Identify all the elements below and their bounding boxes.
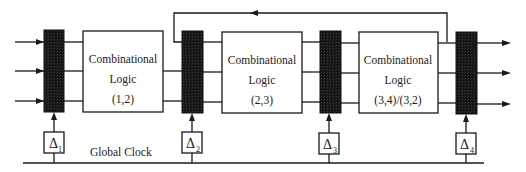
register-2 (182, 31, 203, 113)
logic-block-1: Combinational Logic (1,2) (83, 31, 163, 112)
logic-block-subtitle: Logic (110, 73, 137, 86)
feedback-arrow-icon (250, 10, 258, 16)
output-signals (477, 43, 504, 104)
logic-block-title: Combinational (89, 53, 157, 65)
logic-block-2: Combinational Logic (2,3) (222, 32, 302, 113)
delay-element-2: Δ 2 (182, 113, 202, 163)
logic-block-index: (2,3) (251, 94, 273, 107)
delay-element-1: Δ 1 (44, 112, 64, 163)
delta-icon: Δ (49, 136, 58, 151)
clock-arrow-icon (189, 113, 195, 121)
delay-element-4: Δ 4 (456, 114, 476, 163)
clock-arrow-icon (326, 113, 332, 121)
delay-subscript: 4 (470, 146, 474, 155)
delta-icon: Δ (323, 137, 332, 152)
logic-block-index: (1,2) (112, 93, 134, 106)
delay-subscript: 2 (196, 145, 200, 154)
delta-icon: Δ (460, 137, 469, 152)
logic-block-title: Combinational (364, 54, 432, 66)
pipeline-diagram: Combinational Logic (1,2) Combinational … (0, 0, 526, 172)
register-3 (320, 31, 341, 113)
logic-block-subtitle: Logic (249, 74, 276, 87)
delay-subscript: 1 (58, 145, 62, 154)
logic-block-index: (3,4)/(3,2) (374, 94, 421, 107)
register-1 (44, 30, 64, 112)
delay-subscript: 3 (333, 146, 337, 155)
delta-icon: Δ (186, 136, 195, 151)
logic-block-subtitle: Logic (385, 74, 412, 87)
register-4 (456, 32, 477, 114)
clock-arrow-icon (51, 112, 57, 120)
output-arrow-icon (502, 40, 511, 107)
logic-block-3: Combinational Logic (3,4)/(3,2) (359, 32, 438, 113)
delay-element-3: Δ 3 (319, 113, 339, 163)
global-clock-label: Global Clock (90, 146, 152, 158)
logic-block-title: Combinational (228, 54, 296, 66)
clock-arrow-icon (463, 114, 469, 122)
